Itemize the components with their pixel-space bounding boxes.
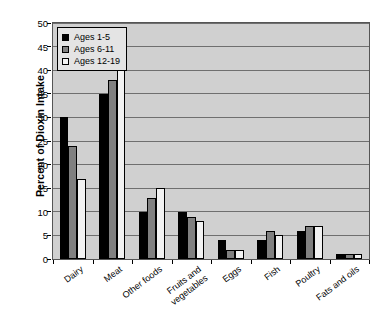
bar-group bbox=[297, 23, 323, 259]
bar bbox=[99, 94, 108, 259]
bar bbox=[117, 47, 126, 259]
y-tick-label-50: 50 bbox=[4, 18, 48, 29]
legend-label: Ages 6-11 bbox=[74, 44, 114, 54]
bar bbox=[178, 212, 187, 259]
y-tick-mark-45 bbox=[47, 46, 51, 47]
bar bbox=[275, 235, 284, 259]
bar-group bbox=[218, 23, 244, 259]
bar-group bbox=[257, 23, 283, 259]
y-tick-label-20: 20 bbox=[4, 159, 48, 170]
x-tick-label: Meat bbox=[54, 264, 124, 321]
x-tick-label: Fats and oils bbox=[291, 264, 361, 321]
bar bbox=[297, 231, 306, 259]
y-tick-mark-20 bbox=[47, 164, 51, 165]
y-tick-mark-50 bbox=[47, 23, 51, 24]
y-tick-mark-25 bbox=[47, 141, 51, 142]
bar bbox=[68, 146, 77, 259]
x-tick-label: Dairy bbox=[15, 264, 85, 321]
legend-item: Ages 1-5 bbox=[62, 31, 120, 43]
bar bbox=[108, 80, 117, 259]
y-tick-label-25: 25 bbox=[4, 136, 48, 147]
y-tick-mark-5 bbox=[47, 235, 51, 236]
legend-swatch-icon bbox=[62, 58, 69, 65]
bar bbox=[218, 240, 227, 259]
legend: Ages 1-5Ages 6-11Ages 12-19 bbox=[57, 27, 127, 71]
bar bbox=[257, 240, 266, 259]
y-tick-label-30: 30 bbox=[4, 112, 48, 123]
y-tick-label-10: 10 bbox=[4, 206, 48, 217]
bar-group bbox=[336, 23, 362, 259]
y-tick-mark-30 bbox=[47, 117, 51, 118]
legend-swatch-icon bbox=[62, 46, 69, 53]
bar-group bbox=[178, 23, 204, 259]
dioxin-intake-bar-chart: Percent of Dioxin Intake 051015202530354… bbox=[0, 0, 389, 323]
legend-label: Ages 12-19 bbox=[74, 56, 120, 66]
bar bbox=[305, 226, 314, 259]
y-tick-mark-10 bbox=[47, 211, 51, 212]
y-tick-label-15: 15 bbox=[4, 183, 48, 194]
bar bbox=[187, 217, 196, 259]
legend-swatch-icon bbox=[62, 34, 69, 41]
bar bbox=[156, 188, 165, 259]
bar-group bbox=[139, 23, 165, 259]
legend-item: Ages 6-11 bbox=[62, 43, 120, 55]
legend-item: Ages 12-19 bbox=[62, 55, 120, 67]
y-axis-tick-labels: 05101520253035404550 bbox=[0, 22, 48, 260]
bar bbox=[77, 179, 86, 259]
y-tick-label-45: 45 bbox=[4, 41, 48, 52]
x-tick-label: Poultry bbox=[252, 264, 322, 321]
y-tick-mark-40 bbox=[47, 70, 51, 71]
y-tick-label-5: 5 bbox=[4, 230, 48, 241]
bar bbox=[60, 117, 69, 259]
y-tick-mark-15 bbox=[47, 188, 51, 189]
x-axis-tick-labels: DairyMeatOther foodsFruits and vegetable… bbox=[0, 258, 389, 323]
bar bbox=[196, 221, 205, 259]
y-tick-mark-35 bbox=[47, 93, 51, 94]
bar bbox=[139, 212, 148, 259]
bar bbox=[147, 198, 156, 259]
legend-label: Ages 1-5 bbox=[74, 32, 110, 42]
bar bbox=[314, 226, 323, 259]
bar bbox=[266, 231, 275, 259]
y-tick-label-35: 35 bbox=[4, 88, 48, 99]
x-tick-label: Fish bbox=[212, 264, 282, 321]
y-tick-label-40: 40 bbox=[4, 65, 48, 76]
